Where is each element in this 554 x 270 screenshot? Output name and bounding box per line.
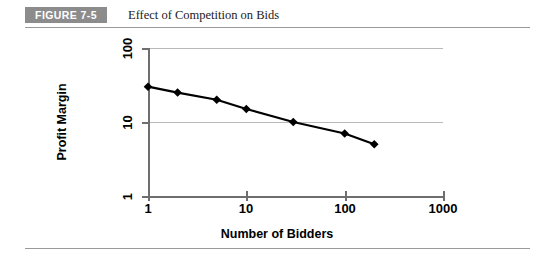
gridline-y-100 bbox=[148, 48, 443, 49]
figure-container: FIGURE 7-5 Effect of Competition on Bids… bbox=[0, 0, 554, 270]
gridline-y-10 bbox=[148, 122, 443, 123]
chart-plot-area: 1 10 100 1000 100 10 1 Profit Margin Num… bbox=[0, 0, 554, 270]
series-polyline bbox=[148, 87, 374, 145]
x-tick-label-1: 1 bbox=[144, 201, 151, 216]
x-tick-100 bbox=[345, 191, 347, 201]
data-point-marker bbox=[173, 88, 182, 97]
footer-divider bbox=[25, 248, 530, 249]
y-tick-label-1: 1 bbox=[120, 182, 135, 212]
x-axis-line bbox=[148, 196, 444, 198]
data-point-marker bbox=[212, 95, 221, 104]
y-tick-10 bbox=[142, 122, 149, 124]
y-axis-title: Profit Margin bbox=[55, 83, 69, 160]
x-tick-10 bbox=[246, 191, 248, 201]
y-tick-1 bbox=[142, 196, 149, 198]
data-point-marker bbox=[340, 129, 349, 138]
x-tick-label-100: 100 bbox=[334, 201, 356, 216]
x-tick-label-10: 10 bbox=[239, 201, 253, 216]
data-point-marker bbox=[242, 105, 251, 114]
data-point-marker bbox=[370, 140, 379, 149]
y-tick-label-100: 100 bbox=[120, 34, 135, 64]
y-tick-label-10: 10 bbox=[120, 108, 135, 138]
x-axis-title: Number of Bidders bbox=[0, 227, 554, 241]
x-tick-label-1000: 1000 bbox=[429, 201, 458, 216]
y-tick-100 bbox=[142, 48, 149, 50]
x-tick-1000 bbox=[443, 191, 445, 201]
